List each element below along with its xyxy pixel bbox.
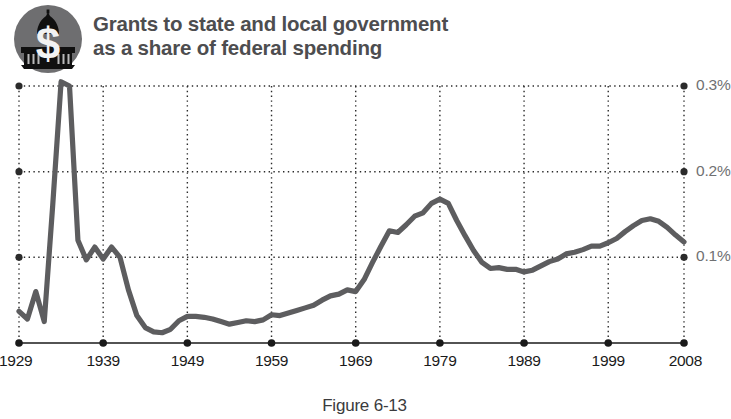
x-tick-dot-1929 (15, 339, 23, 347)
x-tick-dot-1999 (604, 339, 612, 347)
y-tick-label-0.2pct: 0.2% (696, 162, 731, 180)
x-tick-label-1999: 1999 (580, 352, 636, 370)
x-tick-label-1989: 1989 (496, 352, 552, 370)
data-line-grants-share (19, 82, 684, 333)
figure-caption: Figure 6-13 (0, 396, 729, 416)
x-tick-dot-1969 (352, 339, 360, 347)
y-tick-label-0.1pct: 0.1% (696, 247, 731, 265)
x-tick-label-1929: 1929 (0, 352, 55, 370)
x-tick-label-2008: 2008 (646, 352, 702, 370)
gridlines-group (15, 82, 687, 261)
x-tick-label-1979: 1979 (412, 352, 468, 370)
x-tick-dot-1989 (520, 339, 528, 347)
x-gridlines-group (19, 86, 684, 343)
y-tick-label-0.3pct: 0.3% (696, 76, 731, 94)
gridline-endpoint-dot (680, 168, 687, 175)
gridline-endpoint-dot (15, 168, 22, 175)
x-tick-label-1969: 1969 (328, 352, 384, 370)
x-tick-dot-1949 (184, 339, 192, 347)
x-tick-dot-1979 (436, 339, 444, 347)
x-tick-label-1949: 1949 (159, 352, 215, 370)
x-tick-dot-2008 (680, 339, 688, 347)
x-tick-dot-1959 (268, 339, 276, 347)
x-tick-dot-1939 (99, 339, 107, 347)
x-tick-label-1939: 1939 (75, 352, 131, 370)
x-tick-label-1959: 1959 (244, 352, 300, 370)
